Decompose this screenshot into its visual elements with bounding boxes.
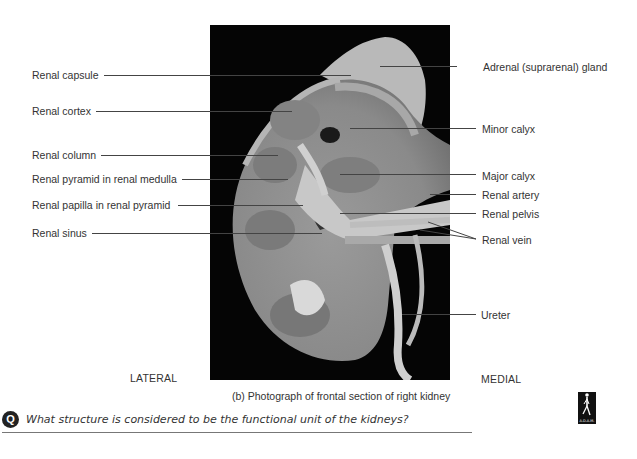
- kidney-photograph: [210, 25, 450, 380]
- label-renal-sinus: Renal sinus: [32, 227, 87, 239]
- label-renal-vein: Renal vein: [482, 234, 532, 246]
- label-renal-artery: Renal artery: [482, 189, 539, 201]
- orientation-medial: MEDIAL: [481, 373, 521, 385]
- leader-line-ureter: [402, 314, 476, 315]
- leader-line-renal-pelvis: [340, 213, 476, 214]
- label-renal-papilla: Renal papilla in renal pyramid: [32, 199, 170, 211]
- figure-caption: (b) Photograph of frontal section of rig…: [232, 390, 450, 402]
- leader-line-renal-papilla: [178, 205, 303, 206]
- leader-line-major-calyx: [340, 174, 476, 175]
- label-renal-capsule: Renal capsule: [32, 69, 99, 81]
- kidney-illustration: [210, 25, 450, 380]
- label-renal-pelvis: Renal pelvis: [482, 208, 539, 220]
- question-text: What structure is considered to be the f…: [26, 413, 409, 426]
- leader-line-renal-cortex: [96, 111, 292, 112]
- adam-logo: A.D.A.M.: [578, 392, 596, 424]
- question-icon: Q: [2, 411, 19, 428]
- label-renal-cortex: Renal cortex: [32, 105, 91, 117]
- walking-figure-icon: [578, 392, 596, 418]
- leader-line-adrenal-gland: [380, 66, 457, 67]
- label-renal-column: Renal column: [32, 149, 96, 161]
- adam-logo-text: A.D.A.M.: [578, 419, 596, 423]
- label-major-calyx: Major calyx: [482, 170, 535, 182]
- orientation-lateral: LATERAL: [130, 372, 177, 384]
- leader-line-renal-column: [101, 155, 278, 156]
- leader-line-renal-sinus: [92, 233, 322, 234]
- question-row: Q What structure is considered to be the…: [2, 410, 472, 433]
- label-ureter: Ureter: [481, 309, 510, 321]
- leader-lines-renal-vein: [420, 220, 480, 245]
- leader-line-minor-calyx: [350, 128, 476, 129]
- leader-line-renal-pyramid: [182, 179, 288, 180]
- leader-line-renal-artery: [430, 194, 476, 195]
- leader-line-renal-capsule: [104, 75, 351, 76]
- label-renal-pyramid: Renal pyramid in renal medulla: [32, 173, 177, 185]
- label-minor-calyx: Minor calyx: [482, 123, 535, 135]
- label-adrenal-gland: Adrenal (suprarenal) gland: [483, 61, 607, 73]
